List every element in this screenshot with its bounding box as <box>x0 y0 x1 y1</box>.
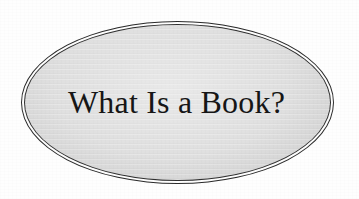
page-title: What Is a Book? <box>68 86 285 118</box>
slide-canvas: What Is a Book? <box>0 0 359 199</box>
oval-badge: What Is a Book? <box>21 21 334 184</box>
oval-title-container: What Is a Book? <box>21 21 334 184</box>
